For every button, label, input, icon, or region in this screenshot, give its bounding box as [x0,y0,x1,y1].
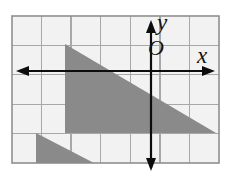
coordinate-plane-figure [0,0,230,185]
x-axis-label: x [197,44,207,67]
y-axis-label: y [157,11,167,34]
y-axis-down-arrowhead [146,158,156,171]
figure-container: y O x [0,0,230,185]
origin-label: O [148,37,164,59]
